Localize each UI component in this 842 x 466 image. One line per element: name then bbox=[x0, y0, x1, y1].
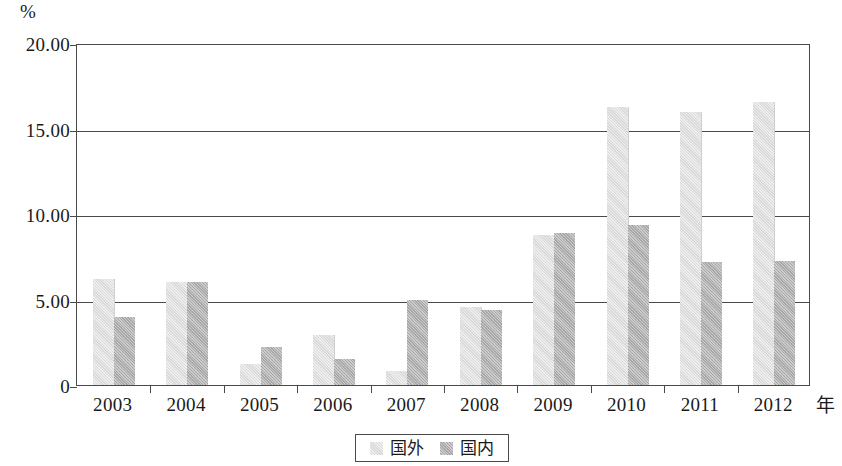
x-axis-tick-label-2010: 2010 bbox=[591, 394, 663, 416]
y-axis-tick-labels: 05.0010.0015.0020.00 bbox=[0, 44, 70, 386]
x-axis-tick bbox=[591, 385, 592, 393]
x-axis-tick-label-2005: 2005 bbox=[224, 394, 296, 416]
bar-domestic-2011 bbox=[701, 262, 722, 385]
y-axis-tick bbox=[70, 216, 77, 217]
y-axis-tick-label: 15.00 bbox=[2, 121, 70, 140]
bar-foreign-2004 bbox=[166, 282, 188, 385]
x-axis-tick bbox=[664, 385, 665, 393]
x-axis-tick-label-2004: 2004 bbox=[150, 394, 222, 416]
bar-domestic-2006 bbox=[334, 359, 355, 386]
bar-foreign-2006 bbox=[313, 335, 335, 385]
x-axis-tick-label-2012: 2012 bbox=[737, 394, 809, 416]
bar-domestic-2007 bbox=[407, 300, 428, 386]
y-axis-tick-label: 5.00 bbox=[2, 292, 70, 311]
x-axis-unit-label: 年 bbox=[816, 394, 835, 416]
bar-domestic-2010 bbox=[628, 225, 649, 385]
x-axis-tick bbox=[371, 385, 372, 393]
x-axis-tick-label-2008: 2008 bbox=[444, 394, 516, 416]
y-axis-tick bbox=[70, 131, 77, 132]
bar-foreign-2012 bbox=[753, 102, 775, 385]
bar-foreign-2003 bbox=[93, 279, 115, 385]
bar-domestic-2003 bbox=[114, 317, 135, 385]
y-axis-tick-label: 20.00 bbox=[2, 35, 70, 54]
legend-label-domestic: 国内 bbox=[460, 439, 494, 457]
bar-foreign-2008 bbox=[460, 307, 482, 385]
legend-swatch-domestic bbox=[440, 442, 453, 455]
bar-foreign-2010 bbox=[607, 107, 629, 385]
y-axis-tick bbox=[70, 302, 77, 303]
y-axis-tick bbox=[70, 45, 77, 46]
bars-layer bbox=[77, 45, 809, 385]
bar-foreign-2005 bbox=[240, 364, 262, 385]
bar-chart: % 05.0010.0015.0020.00 20032004200520062… bbox=[0, 0, 842, 466]
bar-domestic-2012 bbox=[774, 261, 795, 385]
plot-area bbox=[76, 44, 810, 386]
x-axis-tick bbox=[517, 385, 518, 393]
bar-domestic-2008 bbox=[481, 310, 502, 385]
legend-label-foreign: 国外 bbox=[390, 439, 424, 457]
x-axis-tick-label-2006: 2006 bbox=[297, 394, 369, 416]
x-axis-tick-label-2009: 2009 bbox=[517, 394, 589, 416]
bar-foreign-2009 bbox=[533, 235, 555, 385]
y-axis-tick-label: 0 bbox=[2, 377, 70, 396]
y-axis-tick bbox=[70, 387, 77, 388]
y-axis-tick-label: 10.00 bbox=[2, 206, 70, 225]
x-axis-tick-label-2011: 2011 bbox=[664, 394, 736, 416]
bar-foreign-2007 bbox=[386, 371, 408, 385]
x-axis-tick bbox=[738, 385, 739, 393]
x-axis-tick-labels: 2003200420052006200720082009201020112012 bbox=[76, 394, 810, 420]
chart-legend: 国外 国内 bbox=[355, 434, 509, 462]
bar-foreign-2011 bbox=[680, 112, 702, 385]
x-axis-tick bbox=[224, 385, 225, 393]
bar-domestic-2009 bbox=[554, 233, 575, 385]
x-axis-tick bbox=[444, 385, 445, 393]
legend-item-foreign: 国外 bbox=[370, 439, 424, 457]
legend-swatch-foreign bbox=[370, 442, 383, 455]
y-axis-unit-label: % bbox=[20, 2, 36, 22]
bar-domestic-2004 bbox=[187, 282, 208, 385]
bar-domestic-2005 bbox=[261, 347, 282, 385]
legend-item-domestic: 国内 bbox=[440, 439, 494, 457]
x-axis-tick-label-2003: 2003 bbox=[77, 394, 149, 416]
x-axis-tick bbox=[150, 385, 151, 393]
x-axis-tick bbox=[297, 385, 298, 393]
x-axis-tick-label-2007: 2007 bbox=[370, 394, 442, 416]
